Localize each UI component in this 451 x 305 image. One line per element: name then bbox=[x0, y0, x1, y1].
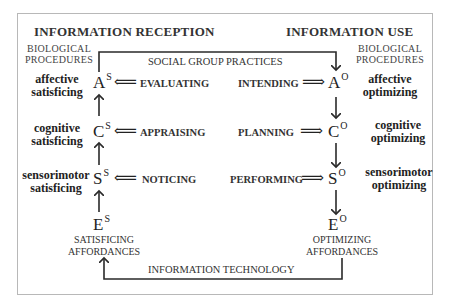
node-letter: S bbox=[328, 169, 337, 188]
intending-label: INTENDING bbox=[238, 78, 299, 89]
left-procedures-line-1: BIOLOGICAL bbox=[24, 43, 94, 54]
label-line: optimizing bbox=[358, 179, 440, 192]
affective-satisficing-label: affective satisficing bbox=[22, 73, 92, 99]
information-use-title: INFORMATION USE bbox=[286, 24, 413, 40]
information-technology-label: INFORMATION TECHNOLOGY bbox=[148, 264, 295, 275]
sensorimotor-optimizing-label: sensorimotor optimizing bbox=[358, 166, 440, 192]
node-letter: C bbox=[93, 122, 104, 141]
label-line: AFFORDANCES bbox=[300, 246, 384, 258]
node-letter: S bbox=[93, 169, 102, 188]
node-sup: S bbox=[103, 167, 109, 178]
left-biological-procedures: BIOLOGICAL PROCEDURES bbox=[24, 43, 94, 65]
node-es: ES bbox=[93, 215, 110, 235]
label-line: optimizing bbox=[360, 132, 436, 145]
noticing-label: NOTICING bbox=[142, 174, 196, 185]
left-procedures-line-2: PROCEDURES bbox=[24, 54, 94, 65]
appraising-label: APPRAISING bbox=[140, 127, 205, 138]
node-sup: O bbox=[341, 71, 348, 82]
social-group-practices-label: SOCIAL GROUP PRACTICES bbox=[148, 56, 283, 67]
node-sup: S bbox=[106, 71, 112, 82]
node-sup: S bbox=[104, 213, 110, 224]
right-procedures-line-2: PROCEDURES bbox=[355, 54, 425, 65]
node-letter: A bbox=[93, 73, 105, 92]
node-ss: SS bbox=[93, 169, 109, 189]
cognitive-optimizing-label: cognitive optimizing bbox=[360, 119, 436, 145]
right-double-arrow-icon: ⟹ bbox=[300, 121, 323, 140]
right-double-arrow-icon: ⟹ bbox=[301, 168, 324, 187]
node-ao: AO bbox=[328, 73, 349, 93]
node-letter: E bbox=[93, 215, 103, 234]
node-sup: S bbox=[105, 120, 111, 131]
evaluating-label: EVALUATING bbox=[140, 78, 209, 89]
label-line: satisficing bbox=[18, 182, 94, 195]
label-line: SATISFICING bbox=[60, 234, 148, 246]
node-sup: O bbox=[338, 167, 345, 178]
label-line: satisficing bbox=[22, 86, 92, 99]
performing-label: PERFORMING bbox=[230, 174, 303, 185]
node-letter: C bbox=[328, 122, 339, 141]
right-biological-procedures: BIOLOGICAL PROCEDURES bbox=[355, 43, 425, 65]
label-line: optimizing bbox=[355, 86, 425, 99]
node-cs: CS bbox=[93, 122, 111, 142]
affective-optimizing-label: affective optimizing bbox=[355, 73, 425, 99]
optimizing-affordances-label: OPTIMIZING AFFORDANCES bbox=[300, 234, 384, 258]
left-double-arrow-icon: ⟸ bbox=[114, 168, 137, 187]
right-double-arrow-icon: ⟹ bbox=[302, 72, 325, 91]
node-eo: EO bbox=[328, 215, 347, 235]
satisficing-affordances-label: SATISFICING AFFORDANCES bbox=[60, 234, 148, 258]
sensorimotor-satisficing-label: sensorimotor satisficing bbox=[18, 169, 94, 195]
planning-label: PLANNING bbox=[238, 127, 294, 138]
left-double-arrow-icon: ⟸ bbox=[114, 121, 137, 140]
label-line: AFFORDANCES bbox=[60, 246, 148, 258]
node-sup: O bbox=[340, 120, 347, 131]
node-letter: E bbox=[328, 215, 338, 234]
label-line: OPTIMIZING bbox=[300, 234, 384, 246]
node-as: AS bbox=[93, 73, 112, 93]
left-double-arrow-icon: ⟸ bbox=[114, 72, 137, 91]
cognitive-satisficing-label: cognitive satisficing bbox=[22, 122, 92, 148]
node-sup: O bbox=[339, 213, 346, 224]
node-so: SO bbox=[328, 169, 346, 189]
node-co: CO bbox=[328, 122, 348, 142]
label-line: satisficing bbox=[22, 135, 92, 148]
node-letter: A bbox=[328, 73, 340, 92]
right-procedures-line-1: BIOLOGICAL bbox=[355, 43, 425, 54]
information-reception-title: INFORMATION RECEPTION bbox=[34, 24, 215, 40]
